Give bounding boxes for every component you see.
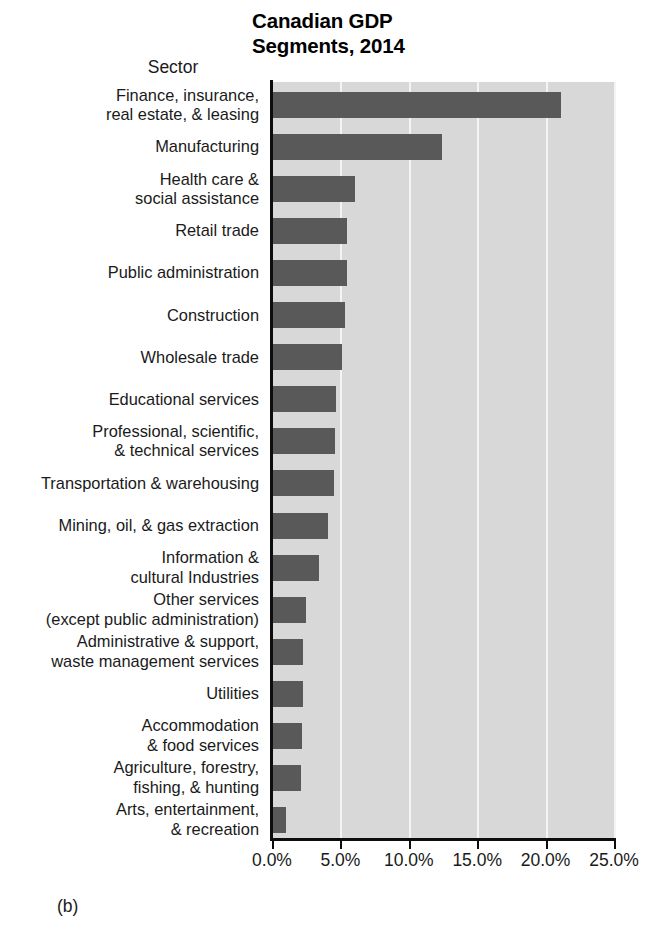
bar [272,470,334,496]
bar [272,513,328,539]
category-label: Utilities [12,684,270,704]
category-label: Agriculture, forestry, fishing, & huntin… [12,758,270,797]
x-axis-tick [340,841,342,849]
x-axis-tick [477,841,479,849]
category-label: Retail trade [12,221,270,241]
category-label: Manufacturing [12,137,270,157]
bar [272,555,319,581]
bar [272,723,302,749]
category-label: Mining, oil, & gas extraction [12,516,270,536]
bar [272,218,347,244]
bar [272,765,301,791]
x-axis-tick [272,841,274,849]
bar [272,302,345,328]
y-axis-category-labels: Finance, insurance, real estate, & leasi… [0,0,270,938]
plot-area [272,82,614,839]
gridline [614,82,616,839]
bar [272,176,355,202]
x-axis-tick [614,841,616,849]
x-axis-line [270,838,616,841]
category-label: Transportation & warehousing [12,474,270,494]
category-label: Information & cultural Industries [12,548,270,587]
gridline [409,82,411,839]
category-label: Health care & social assistance [12,170,270,209]
category-label: Accommodation & food services [12,716,270,755]
category-label: Wholesale trade [12,348,270,368]
category-label: Other services (except public administra… [12,590,270,629]
x-axis-tick [409,841,411,849]
y-axis-line [270,80,273,841]
x-axis-tick [546,841,548,849]
category-label: Arts, entertainment, & recreation [12,800,270,839]
bar [272,344,342,370]
category-label: Finance, insurance, real estate, & leasi… [12,86,270,125]
gridline [546,82,548,839]
bar [272,92,561,118]
bar [272,597,306,623]
chart-title: Canadian GDP Segments, 2014 [252,8,502,58]
category-label: Construction [12,306,270,326]
category-label: Professional, scientific, & technical se… [12,422,270,461]
bar [272,134,442,160]
category-label: Educational services [12,390,270,410]
x-axis-tick-label: 25.0% [569,850,659,871]
category-label: Administrative & support, waste manageme… [12,632,270,671]
bar [272,260,347,286]
gridline [477,82,479,839]
bar [272,386,336,412]
bar [272,428,335,454]
panel-label: (b) [57,896,78,917]
category-label: Public administration [12,263,270,283]
figure-panel-b: Canadian GDP Segments, 2014 Sector 0.0%5… [0,0,667,938]
bar [272,681,303,707]
bar [272,807,286,833]
bar [272,639,303,665]
